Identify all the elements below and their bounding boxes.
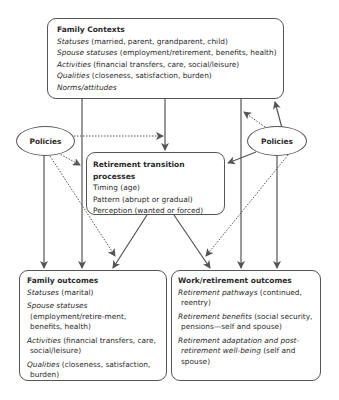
arrow-transition-to-work-outcomes [174, 215, 210, 268]
family-outcomes-item: Statuses (marital) [27, 288, 159, 299]
work-retirement-outcomes-item: Retirement adaptation and post-retiremen… [178, 336, 314, 368]
policies-right-ellipse: Policies [247, 126, 307, 156]
family-outcomes-box: Family outcomes Statuses (marital) Spous… [19, 270, 167, 381]
family-contexts-box: Family Contexts Statuses (married, paren… [47, 18, 284, 99]
family-contexts-item: Spouse statuses (employment/retirement, … [57, 47, 274, 59]
arrow-transition-to-family-outcomes [113, 215, 147, 268]
arrow-policies-left-to-transition-dotted [58, 153, 80, 165]
work-retirement-outcomes-item: Retirement benefits (social security, pe… [178, 312, 314, 333]
retirement-transition-item: Timing (age) [93, 182, 218, 194]
family-outcomes-item: Spouse statuses (employment/retire-ment,… [27, 301, 159, 333]
retirement-transition-box: Retirement transition processes Timing (… [86, 152, 225, 215]
family-outcomes-item: Activities (financial transfers, care, s… [27, 336, 159, 357]
retirement-transition-item: Pattern (abrupt or gradual) [93, 194, 218, 206]
family-outcomes-title: Family outcomes [27, 276, 159, 287]
family-contexts-item: Activities (financial transfers, care, s… [57, 59, 274, 71]
work-retirement-outcomes-title: Work/retirement outcomes [178, 276, 314, 287]
arrow-policies-right-to-transition [228, 152, 256, 163]
family-outcomes-item: Qualities (closeness, satisfaction, burd… [27, 360, 159, 381]
retirement-transition-title: Retirement transition processes [93, 159, 218, 182]
policies-left-label: Policies [30, 137, 62, 146]
family-contexts-item: Statuses (married, parent, grandparent, … [57, 36, 274, 48]
arrow-policies-right-to-contexts [275, 102, 282, 128]
policies-left-ellipse: Policies [16, 126, 75, 156]
family-contexts-item: Norms/attitudes [57, 82, 274, 94]
work-retirement-outcomes-item: Retirement pathways (continued, reentry) [178, 288, 314, 309]
family-contexts-item: Qualities (closeness, satisfaction, burd… [57, 70, 274, 82]
family-contexts-title: Family Contexts [57, 24, 274, 36]
arrow-policies-right-to-contexts-dotted [244, 112, 265, 127]
work-retirement-outcomes-box: Work/retirement outcomes Retirement path… [171, 270, 321, 381]
retirement-transition-item: Perception (wanted or forced) [93, 205, 218, 217]
policies-right-label: Policies [261, 137, 293, 146]
